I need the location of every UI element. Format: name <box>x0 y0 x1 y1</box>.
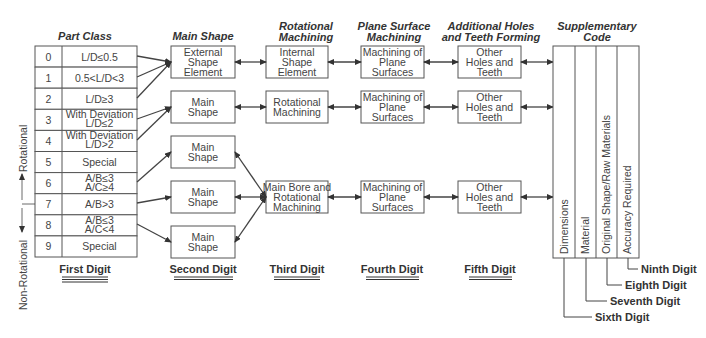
fourth-digit-box: Machining ofPlaneSurfaces <box>361 46 424 78</box>
side-label-non-rotational: Non-Rotational <box>17 240 29 310</box>
supp-col-original-shape: Original Shape/Raw Materials <box>600 115 612 254</box>
third-digit-box: InternalShapeElement <box>266 46 328 78</box>
main-shape-box-text: Shape <box>188 241 219 253</box>
supp-col-material: Material <box>579 217 591 254</box>
part-class-number: 6 <box>46 177 52 189</box>
fourth-digit-box: Machining ofPlaneSurfaces <box>361 91 424 123</box>
part-class-table: 0L/D≤0.510.5<L/D<32L/D≥33With DeviationL… <box>35 46 137 257</box>
rotational-divider <box>22 174 35 232</box>
part-class-row: 9Special <box>35 236 137 257</box>
part-class-desc: A/B>3 <box>85 198 114 210</box>
part-class-row: 5Special <box>35 152 137 173</box>
main-shape-box: MainShape <box>171 181 235 213</box>
fourth-digit-box-text: Surfaces <box>372 111 413 123</box>
fifth-digit-box-text: Teeth <box>477 111 503 123</box>
third-digit-label: Third Digit <box>270 263 325 275</box>
part-class-row: 2L/D≥3 <box>35 88 137 109</box>
part-class-desc-2: A/C<4 <box>85 223 115 235</box>
ninth-digit-label: Ninth Digit <box>641 263 697 275</box>
opitz-classification-diagram: Part Class Main Shape Rotational Machini… <box>0 0 706 338</box>
fifth-digit-box: OtherHoles andTeeth <box>458 181 521 213</box>
part-class-desc: Special <box>82 240 116 252</box>
supp-col-accuracy: Accuracy Required <box>621 165 633 254</box>
part-class-row: 8A/B≤3A/C<4 <box>35 214 137 236</box>
part-class-desc: 0.5<L/D<3 <box>75 72 124 84</box>
seventh-digit-label: Seventh Digit <box>610 295 681 307</box>
third-digit-box-text: Element <box>278 66 317 78</box>
fourth-digit-box: Machining ofPlaneSurfaces <box>361 181 424 213</box>
sixth-digit-label: Sixth Digit <box>595 311 650 323</box>
part-class-number: 2 <box>46 93 52 105</box>
fourth-digit-box-text: Surfaces <box>372 66 413 78</box>
fifth-digit-box: OtherHoles andTeeth <box>458 46 521 78</box>
part-class-number: 7 <box>46 198 52 210</box>
header-additional-2: and Teeth Forming <box>442 31 541 43</box>
fifth-digit-label: Fifth Digit <box>464 263 516 275</box>
part-class-number: 8 <box>46 219 52 231</box>
part-class-desc-2: L/D>2 <box>85 138 113 150</box>
supp-col-dimensions: Dimensions <box>558 199 570 254</box>
header-supplementary-2: Code <box>583 31 611 43</box>
main-shape-box-text: Shape <box>188 151 219 163</box>
part-class-row: 10.5<L/D<3 <box>35 67 137 88</box>
part-class-desc: Special <box>82 156 116 168</box>
eighth-digit-label: Eighth Digit <box>625 279 687 291</box>
part-class-number: 0 <box>46 51 52 63</box>
part-class-desc-2: A/C≥4 <box>85 181 114 193</box>
main-shape-box: MainShape <box>171 226 235 258</box>
part-class-number: 4 <box>46 135 52 147</box>
main-shape-box: MainShape <box>171 91 235 123</box>
part-class-row: 7A/B>3 <box>35 194 137 215</box>
supplementary-code-table: Dimensions Material Original Shape/Raw M… <box>553 46 639 317</box>
fifth-digit-box-text: Teeth <box>477 66 503 78</box>
fourth-digit-label: Fourth Digit <box>361 263 424 275</box>
part-class-row: 0L/D≤0.5 <box>35 46 137 67</box>
main-shape-box: ExternalShapeElement <box>171 46 235 78</box>
digit-labels: First Digit Second Digit Third Digit Fou… <box>59 263 516 282</box>
part-class-row: 3With DeviationL/D≤2 <box>35 108 137 130</box>
part-class-row: 6A/B≤3A/C≥4 <box>35 172 137 194</box>
header-part-class: Part Class <box>58 30 112 42</box>
main-shape-box: MainShape <box>171 136 235 168</box>
first-digit-label: First Digit <box>59 263 111 275</box>
part-class-row: 4With DeviationL/D>2 <box>35 129 137 151</box>
part-class-desc: L/D≤0.5 <box>81 51 118 63</box>
part-class-number: 5 <box>46 156 52 168</box>
fifth-digit-box: OtherHoles andTeeth <box>458 91 521 123</box>
header-main-shape: Main Shape <box>172 30 233 42</box>
fifth-digit-box-text: Teeth <box>477 201 503 213</box>
third-digit-box-text: Machining <box>273 106 321 118</box>
main-shape-box-text: Shape <box>188 106 219 118</box>
header-rotational-2: Machining <box>279 31 334 43</box>
second-digit-label: Second Digit <box>169 263 237 275</box>
part-class-number: 3 <box>46 114 52 126</box>
fourth-digit-box-text: Surfaces <box>372 201 413 213</box>
main-shape-box-text: Element <box>184 66 223 78</box>
part-class-desc: L/D≥3 <box>86 93 114 105</box>
part-class-number: 1 <box>46 72 52 84</box>
main-shape-box-text: Shape <box>188 196 219 208</box>
third-digit-box-text: Machining <box>273 201 321 213</box>
part-class-desc-2: L/D≤2 <box>86 117 114 129</box>
third-digit-box: Main Bore andRotationalMachining <box>263 181 331 213</box>
side-label-rotational: Rotational <box>17 125 29 172</box>
header-plane-2: Machining <box>367 31 422 43</box>
part-class-number: 9 <box>46 240 52 252</box>
third-digit-box: RotationalMachining <box>266 91 328 123</box>
